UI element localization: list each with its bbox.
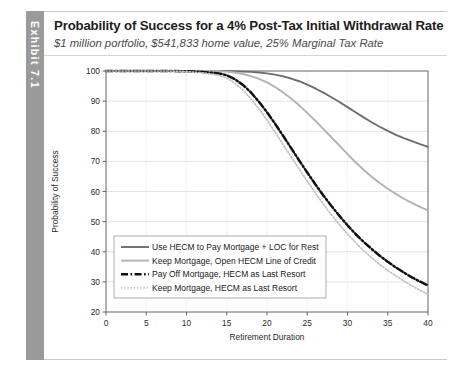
x-tick-label: 15: [222, 318, 232, 328]
x-tick-label: 10: [182, 318, 192, 328]
x-tick-label: 35: [383, 318, 393, 328]
x-tick-label: 40: [423, 318, 433, 328]
legend-label-2: Keep Mortgage, Open HECM Line of Credit: [152, 256, 317, 266]
legend-label-3: Pay Off Mortgage, HECM as Last Resort: [152, 269, 306, 279]
x-tick-label: 0: [104, 318, 109, 328]
y-tick-label: 80: [91, 126, 101, 136]
chart-plot-area: 20304050607080901000510152025303540Retir…: [44, 59, 447, 359]
legend-label-4: Keep Mortgage, HECM as Last Resort: [152, 283, 298, 293]
line-chart: 20304050607080901000510152025303540Retir…: [44, 59, 442, 360]
legend-label-1: Use HECM to Pay Mortgage + LOC for Rest: [152, 242, 319, 252]
exhibit-card: Exhibit 7.1 Probability of Success for a…: [26, 11, 442, 360]
exhibit-tab: Exhibit 7.1: [26, 11, 44, 360]
y-tick-label: 40: [91, 247, 101, 257]
page-title: Probability of Success for a 4% Post-Tax…: [54, 18, 443, 34]
x-tick-label: 25: [303, 318, 313, 328]
y-tick-label: 20: [91, 307, 101, 317]
y-axis-label: Probability of Success: [50, 150, 60, 232]
y-tick-label: 70: [91, 156, 101, 166]
exhibit-tab-label: Exhibit 7.1: [29, 21, 41, 89]
y-tick-label: 30: [91, 277, 101, 287]
x-axis-label: Retirement Duration: [230, 332, 305, 342]
title-block: Probability of Success for a 4% Post-Tax…: [44, 12, 447, 56]
card-body: Probability of Success for a 4% Post-Tax…: [44, 11, 447, 360]
x-tick-label: 30: [343, 318, 353, 328]
y-tick-label: 100: [86, 66, 100, 76]
y-tick-label: 90: [91, 96, 101, 106]
y-tick-label: 50: [91, 217, 101, 227]
y-tick-label: 60: [91, 187, 101, 197]
x-tick-label: 5: [144, 318, 149, 328]
page-subtitle: $1 million portfolio, $541,833 home valu…: [54, 37, 443, 50]
x-tick-label: 20: [262, 318, 272, 328]
